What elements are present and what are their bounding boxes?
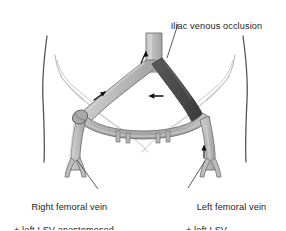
left-femoral-vein [200, 116, 221, 177]
label-occlusion-text: Iliac venous occlusion [171, 21, 263, 31]
label-iliac-venous-occlusion: Iliac venous occlusion [160, 9, 262, 44]
right-common-iliac-vein [77, 60, 156, 126]
iliac-crest-right [206, 55, 235, 101]
label-right-femoral-line2: + left LSV anastomosed [14, 225, 114, 231]
iliac-crest-left [55, 55, 84, 101]
leader-line-right-femoral [77, 160, 98, 189]
label-right-femoral-vein: Right femoral vein + left LSV anastomose… [14, 190, 114, 230]
label-right-femoral-line1: Right femoral vein [31, 202, 107, 212]
venous-bypass-illustration: Iliac venous occlusion Right femoral vei… [0, 0, 286, 230]
hip-contour-right [198, 60, 233, 102]
label-left-femoral-vein: Left femoral vein + left LSV [186, 190, 266, 230]
left-common-iliac-vein-occluded [152, 58, 203, 122]
hip-contour-left [57, 60, 92, 102]
label-left-femoral-line1: Left femoral vein [197, 202, 267, 212]
torso-outline-right [243, 36, 247, 162]
label-left-femoral-line2: + left LSV [186, 225, 266, 231]
torso-outline-left [43, 36, 47, 162]
flow-arrow-crossover-graft [149, 93, 163, 98]
